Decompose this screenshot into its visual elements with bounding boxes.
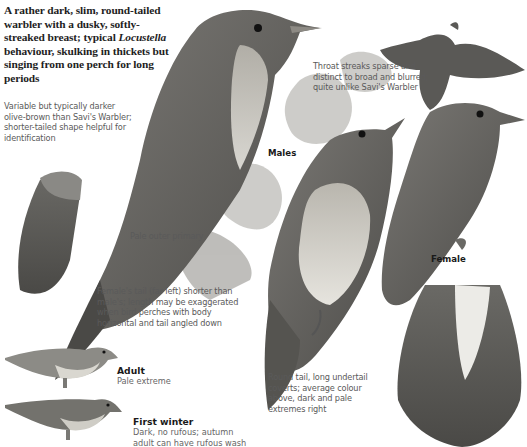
spread-tail-underside <box>397 285 521 447</box>
first-winter-caption-title: First winter <box>133 416 253 427</box>
field-guide-plate: A rather dark, slim, round-tailed warble… <box>0 0 527 447</box>
throat-annotation: Throat streaks sparse and distinct to br… <box>313 61 433 93</box>
first-winter-bird-small <box>5 399 122 440</box>
adult-caption-body: Pale extreme <box>117 376 227 387</box>
first-winter-caption-body: Dark, no rufous; autumn adult can have r… <box>133 427 253 447</box>
tail-annotation: Round tail, long undertail coverts; aver… <box>268 372 388 414</box>
adult-caption-title: Adult <box>117 365 227 376</box>
first-winter-caption: First winter Dark, no rufous; autumn adu… <box>133 416 253 447</box>
female-bird <box>382 103 525 305</box>
intro-part-2: behaviour, skulking in thickets but sing… <box>4 45 169 84</box>
outer-primary-annotation: Pale outer primary <box>130 231 240 242</box>
female-label: Female <box>431 254 466 264</box>
tail-detail-female <box>18 171 82 293</box>
adult-bird-small <box>5 348 118 388</box>
species-intro-text: A rather dark, slim, round-tailed warble… <box>4 4 174 86</box>
adult-caption: Adult Pale extreme <box>117 365 227 387</box>
colour-annotation: Variable but typically darker olive-brow… <box>4 101 134 143</box>
males-label: Males <box>268 148 296 158</box>
intro-genus: Locustella <box>118 31 166 43</box>
female-tail-annotation: Female's tail (far left) shorter than ma… <box>97 286 247 328</box>
